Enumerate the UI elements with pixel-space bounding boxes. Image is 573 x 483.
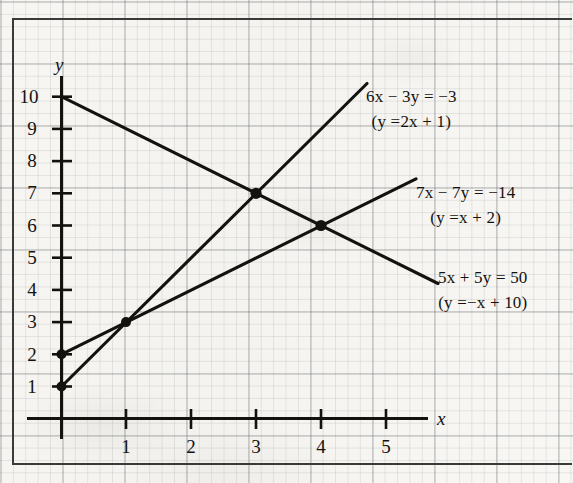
y-tick-label-2: 2 (16, 345, 48, 364)
equation-label-3-line2: (y =−x + 10) (438, 290, 528, 315)
y-tick-label-3: 3 (16, 312, 48, 331)
point-0-1 (57, 382, 67, 392)
x-tick-label-5: 5 (370, 437, 402, 456)
x-tick-label-4: 4 (305, 437, 337, 456)
point-4-6 (315, 220, 326, 231)
y-tick-label-8: 8 (16, 151, 48, 170)
equation-label-2-line1: 7x − 7y = −14 (416, 183, 515, 202)
equation-label-1: 6x − 3y = −3 (y =2x + 1) (366, 84, 457, 134)
x-axis-label: x (437, 409, 445, 428)
x-tick-label-2: 2 (175, 437, 207, 456)
line-6x-3y-eq-neg3 (62, 84, 368, 387)
y-tick-label-9: 9 (16, 119, 48, 138)
equation-label-3-line1: 5x + 5y = 50 (438, 268, 528, 287)
y-tick-label-5: 5 (16, 248, 48, 267)
point-1-3 (121, 317, 131, 327)
equation-label-3: 5x + 5y = 50 (y =−x + 10) (438, 265, 528, 315)
plot-area (0, 0, 573, 483)
point-0-2 (57, 349, 67, 359)
graph-figure: 10 9 8 7 6 5 4 3 2 1 1 2 3 4 5 y x 6x − … (0, 0, 573, 483)
equation-label-1-line2: (y =2x + 1) (366, 109, 457, 134)
y-tick-label-10: 10 (10, 87, 48, 106)
y-axis-label: y (55, 55, 63, 74)
y-tick-label-6: 6 (16, 216, 48, 235)
line-7x-7y-eq-neg14 (62, 179, 417, 354)
x-tick-label-3: 3 (240, 437, 272, 456)
y-tick-label-7: 7 (16, 183, 48, 202)
equation-label-1-line1: 6x − 3y = −3 (366, 87, 457, 106)
point-3-7 (250, 188, 261, 199)
y-tick-label-4: 4 (16, 280, 48, 299)
y-tick-label-1: 1 (16, 377, 48, 396)
equation-label-2: 7x − 7y = −14 (y =x + 2) (416, 180, 515, 230)
equation-label-2-line2: (y =x + 2) (416, 205, 515, 230)
x-tick-label-1: 1 (110, 437, 142, 456)
